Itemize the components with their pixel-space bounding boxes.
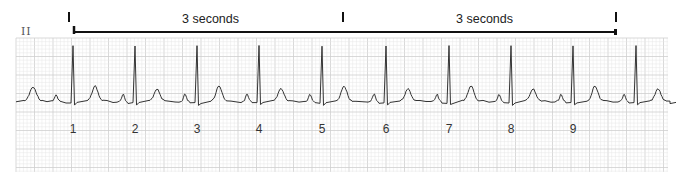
beat-number-6: 6 <box>383 122 390 136</box>
beat-number-5: 5 <box>319 122 326 136</box>
beat-number-8: 8 <box>508 122 515 136</box>
ecg-trace <box>16 46 676 106</box>
interval-label-second: 3 seconds <box>456 12 513 26</box>
ecg-rhythm-strip <box>0 0 678 177</box>
beat-number-3: 3 <box>194 122 201 136</box>
interval-label-first: 3 seconds <box>182 12 239 26</box>
beat-number-9: 9 <box>570 122 577 136</box>
beat-number-7: 7 <box>446 122 453 136</box>
beat-number-2: 2 <box>132 122 139 136</box>
beat-number-1: 1 <box>70 122 77 136</box>
beat-number-4: 4 <box>256 122 263 136</box>
lead-label: II <box>21 25 32 38</box>
interval-markers <box>69 12 617 35</box>
ecg-grid <box>16 38 668 172</box>
